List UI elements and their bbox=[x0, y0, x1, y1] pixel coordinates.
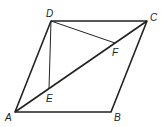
label-b: B bbox=[114, 113, 121, 123]
label-f: F bbox=[112, 48, 118, 58]
label-a: A bbox=[5, 113, 12, 123]
label-d: D bbox=[46, 9, 53, 19]
diagram-lines bbox=[0, 0, 162, 127]
diagonal-ac bbox=[15, 21, 147, 112]
geometry-diagram: D C F E A B bbox=[0, 0, 162, 127]
label-c: C bbox=[150, 13, 157, 23]
segment-df bbox=[51, 21, 115, 43]
segment-de bbox=[49, 21, 51, 89]
label-e: E bbox=[46, 94, 53, 104]
